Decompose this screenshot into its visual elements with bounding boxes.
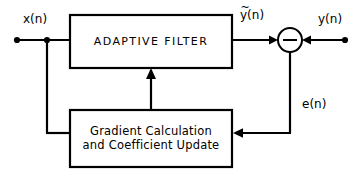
signal-label-input: x(n)	[23, 13, 47, 25]
signal-label-desired: y(n)	[318, 13, 342, 25]
desired-signal-arrowhead	[302, 36, 311, 45]
filter-output-arrowhead	[269, 36, 278, 45]
adaptive-filter-label: ADAPTIVE FILTER	[70, 35, 232, 49]
gradient-update-label: Gradient Calculation and Coefficient Upd…	[70, 124, 232, 153]
signal-label-filter-output: ~ y(n)	[240, 9, 264, 21]
error-arrowhead	[233, 128, 243, 138]
signal-label-error: e(n)	[302, 98, 326, 110]
gradient-update-label-line1: Gradient Calculation	[70, 124, 232, 138]
gradient-update-label-line2: and Coefficient Update	[70, 138, 232, 152]
input-terminal-dot	[14, 37, 20, 43]
filter-output-tilde-accent: ~	[241, 2, 250, 13]
diagram-canvas: ADAPTIVE FILTER Gradient Calculation and…	[0, 0, 358, 179]
coefficient-update-arrowhead	[146, 68, 156, 79]
desired-terminal-dot	[342, 37, 348, 43]
